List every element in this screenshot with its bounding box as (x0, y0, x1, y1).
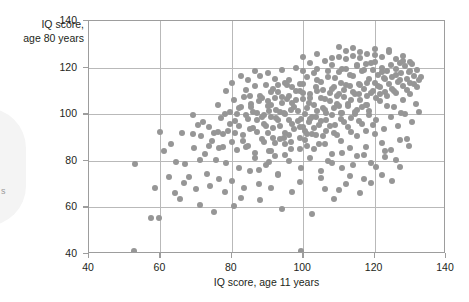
data-point (318, 79, 324, 85)
data-point (397, 164, 403, 170)
x-axis-tick (88, 253, 89, 258)
data-point (200, 119, 206, 125)
data-point (350, 45, 356, 51)
data-point (297, 179, 303, 185)
data-point (357, 55, 363, 61)
data-point (288, 107, 294, 113)
data-point (343, 181, 349, 187)
data-point (361, 67, 367, 73)
data-point (332, 75, 338, 81)
data-point (254, 117, 260, 123)
y-axis-tick (83, 206, 88, 207)
data-point (364, 51, 370, 57)
data-point (366, 112, 372, 118)
data-point (247, 93, 253, 99)
data-point (206, 124, 212, 130)
data-point (357, 49, 363, 55)
data-point (318, 168, 324, 174)
data-point (354, 153, 360, 159)
data-point (327, 123, 333, 129)
data-point (309, 211, 315, 217)
data-point (238, 73, 244, 79)
data-point (152, 185, 158, 191)
data-point (416, 109, 422, 115)
data-point (386, 47, 392, 53)
x-axis-tick-label: 100 (282, 261, 322, 273)
x-axis-tick-label: 80 (211, 261, 251, 273)
page-edge-bleed (0, 108, 26, 226)
data-point (238, 195, 244, 201)
data-point (293, 97, 299, 103)
data-point (336, 187, 342, 193)
data-point (247, 126, 253, 132)
data-point (234, 147, 240, 153)
data-point (350, 162, 356, 168)
data-point (311, 102, 317, 108)
data-point (379, 140, 385, 146)
data-point (223, 160, 229, 166)
data-point (256, 181, 262, 187)
data-point (240, 138, 246, 144)
data-point (261, 139, 267, 145)
plot-area (88, 20, 445, 253)
y-axis-title-line2: age 80 years (0, 31, 84, 45)
data-point (311, 125, 317, 131)
data-point (247, 168, 253, 174)
data-point (225, 128, 231, 134)
data-point (297, 81, 303, 87)
data-point (300, 54, 306, 60)
data-point (168, 141, 174, 147)
data-point (161, 148, 167, 154)
data-point (254, 129, 260, 135)
data-point (339, 165, 345, 171)
data-point (197, 157, 203, 163)
data-point (336, 54, 342, 60)
data-point (404, 136, 410, 142)
data-point (304, 143, 310, 149)
data-point (329, 55, 335, 61)
data-point (379, 172, 385, 178)
data-point (279, 67, 285, 73)
data-point (397, 137, 403, 143)
data-point (281, 110, 287, 116)
x-axis-tick (445, 253, 446, 258)
data-point (211, 130, 217, 136)
data-point (231, 97, 237, 103)
data-point (343, 56, 349, 62)
data-point (227, 109, 233, 115)
data-point (234, 111, 240, 117)
data-point (300, 90, 306, 96)
data-point (259, 114, 265, 120)
data-point (329, 62, 335, 68)
data-point (204, 171, 210, 177)
data-point (288, 146, 294, 152)
scatter-points (89, 21, 444, 252)
data-point (213, 157, 219, 163)
data-point (289, 189, 295, 195)
data-point (257, 73, 263, 79)
data-point (157, 129, 163, 135)
data-point (384, 93, 390, 99)
data-point (320, 133, 326, 139)
x-axis-tick-label: 60 (139, 261, 179, 273)
data-point (268, 185, 274, 191)
data-point (363, 128, 369, 134)
data-point (297, 135, 303, 141)
data-point (190, 131, 196, 137)
data-point (181, 180, 187, 186)
data-point (304, 74, 310, 80)
data-point (191, 145, 197, 151)
page-edge-glyph: s (1, 186, 6, 196)
data-point (243, 144, 249, 150)
data-point (293, 65, 299, 71)
data-point (361, 176, 367, 182)
data-point (193, 186, 199, 192)
data-point (370, 88, 376, 94)
data-point (400, 97, 406, 103)
data-point (388, 114, 394, 120)
data-point (307, 95, 313, 101)
data-point (318, 175, 324, 181)
data-point (406, 143, 412, 149)
data-point (207, 183, 213, 189)
data-point (377, 98, 383, 104)
